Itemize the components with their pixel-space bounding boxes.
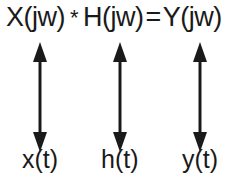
arrow-x — [33, 42, 47, 152]
arrow-h — [113, 42, 127, 152]
y-t-label: y(t) — [182, 145, 218, 174]
x-t-label: x(t) — [22, 145, 58, 174]
arrow-y — [193, 42, 207, 152]
h-t-label: h(t) — [101, 145, 139, 174]
